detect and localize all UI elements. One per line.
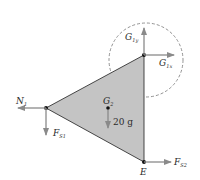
label-weight: 20 g: [113, 117, 133, 127]
label-g1y: G1y: [125, 32, 138, 44]
label-g1x: G1x: [159, 58, 172, 69]
label-fs2: FS2: [173, 157, 187, 168]
label-n1: N1: [15, 96, 27, 107]
triangle-body: [46, 55, 144, 162]
label-e: E: [139, 167, 147, 177]
free-body-diagram: G1y G1x N1 FS1 G2 20 g FS2 E: [0, 0, 200, 180]
label-fs1: FS1: [52, 128, 66, 139]
